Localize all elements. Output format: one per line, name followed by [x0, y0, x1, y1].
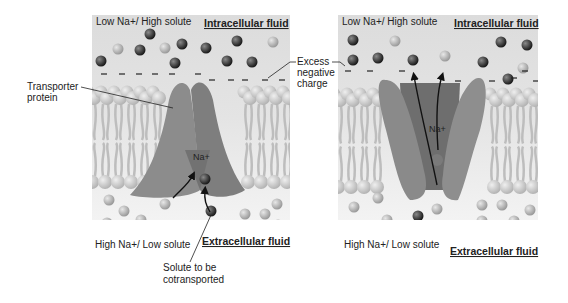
solute-molecule — [170, 58, 181, 69]
sodium-ion — [160, 43, 171, 54]
sodium-ion — [477, 200, 488, 211]
sodium-ion — [497, 200, 508, 211]
lipid-tail — [335, 106, 337, 144]
lipid-head — [528, 93, 542, 107]
sodium-ion — [240, 209, 251, 220]
transporter-label-line1: Transporter — [27, 81, 79, 92]
solute-molecule — [408, 55, 419, 66]
solute-molecule — [96, 56, 107, 67]
lipid-head — [513, 180, 527, 194]
sodium-ion — [401, 225, 412, 236]
solute-molecule — [348, 35, 359, 46]
solute-molecule — [496, 37, 507, 48]
lipid-head — [267, 175, 281, 189]
sodium-ion — [518, 63, 529, 74]
lipid-head — [331, 180, 345, 194]
sodium-ion — [273, 220, 284, 231]
solute-molecule — [177, 39, 188, 50]
sodium-ion — [119, 206, 130, 217]
sodium-ion — [104, 195, 115, 206]
solute-label-line2: cotransported — [163, 274, 224, 285]
lipid-head — [500, 180, 514, 194]
sodium-ion — [390, 36, 401, 47]
cotransport-diagram: Low Na+/ High solute Intracellular fluid… — [0, 0, 568, 303]
sodium-ion — [187, 224, 198, 235]
sodium-ion — [268, 37, 279, 48]
lipid-head — [280, 175, 294, 189]
right-bottom-label: High Na+/ Low solute — [344, 239, 440, 250]
lipid-tail — [89, 143, 91, 176]
solute-molecule — [503, 74, 514, 85]
sodium-ion — [102, 218, 113, 229]
solute-molecule — [160, 222, 171, 233]
sodium-ion — [113, 44, 124, 55]
lipid-head — [370, 180, 384, 194]
sodium-ion — [509, 216, 520, 227]
transporter-label-line2: protein — [27, 92, 58, 103]
sodium-ion — [260, 209, 271, 220]
solute-molecule — [222, 56, 233, 67]
lipid-tail — [335, 147, 337, 182]
lipid-tail — [89, 104, 91, 140]
solute-molecule — [413, 211, 424, 222]
sodium-ion — [121, 222, 132, 233]
lipid-tail — [289, 143, 291, 176]
lipid-head — [254, 175, 268, 189]
solute-molecule — [247, 57, 258, 68]
lipid-tail — [289, 104, 291, 140]
sodium-ion — [525, 205, 536, 216]
lipid-head — [282, 91, 296, 105]
lipid-head — [526, 180, 540, 194]
lipid-head — [98, 175, 112, 189]
solute-molecule — [135, 45, 146, 56]
right-extracellular-label: Extracellular fluid — [450, 245, 538, 257]
left-sodium-label: Na+ — [193, 152, 210, 162]
lipid-head — [111, 175, 125, 189]
left-top-label: Low Na+/ High solute — [96, 16, 192, 27]
solute-molecule — [478, 57, 489, 68]
sodium-ion — [465, 227, 476, 238]
solute-molecule — [522, 40, 533, 51]
sodium-ion — [160, 199, 171, 210]
solute-callout: Solute to be cotransported — [163, 215, 224, 285]
sodium-ion — [217, 222, 228, 233]
excess-label-line1: Excess — [297, 56, 329, 67]
solute-molecule — [200, 174, 211, 185]
lipid-head — [344, 180, 358, 194]
sodium-ion — [373, 193, 384, 204]
sodium-ion — [442, 227, 453, 238]
sodium-ion — [349, 202, 360, 213]
solute-molecule — [348, 55, 359, 66]
left-bottom-label: High Na+/ Low solute — [95, 239, 191, 250]
lipid-head — [85, 175, 99, 189]
lipid-head — [124, 175, 138, 189]
left-extracellular-label: Extracellular fluid — [202, 235, 290, 247]
right-sodium-label: Na+ — [429, 124, 446, 134]
solute-molecule — [373, 53, 384, 64]
lipid-head — [357, 180, 371, 194]
sodium-ion — [136, 215, 147, 226]
sodium-ion — [440, 51, 451, 62]
sodium-ion — [432, 204, 443, 215]
right-top-label: Low Na+/ High solute — [342, 16, 438, 27]
solute-molecule — [232, 36, 243, 47]
sodium-ion — [498, 231, 509, 242]
sodium-ion — [272, 199, 283, 210]
right-intracellular-label: Intracellular fluid — [454, 17, 539, 29]
lipid-head — [241, 175, 255, 189]
sodium-ion — [477, 216, 488, 227]
excess-label-line3: charge — [297, 78, 328, 89]
solute-label-line1: Solute to be — [163, 262, 217, 273]
lipid-head — [487, 180, 501, 194]
lipid-head — [152, 91, 166, 105]
left-intracellular-label: Intracellular fluid — [204, 17, 289, 29]
solute-molecule — [145, 29, 156, 40]
sodium-ion — [349, 224, 360, 235]
excess-label-line2: negative — [297, 67, 335, 78]
panel-left — [82, 15, 297, 235]
solute-molecule — [201, 43, 212, 54]
sodium-ion — [382, 215, 393, 226]
